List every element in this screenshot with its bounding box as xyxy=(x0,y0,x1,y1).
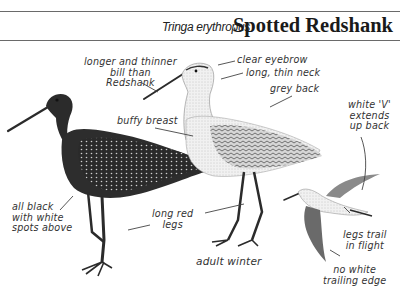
label-bill: longer and thinner bill than Redshank xyxy=(84,57,177,89)
caption-adult-winter: adult winter xyxy=(196,256,262,267)
label-trailing-edge: no white trailing edge xyxy=(323,265,386,286)
label-all-black: all black with white spots above xyxy=(12,202,72,234)
label-eyebrow: clear eyebrow xyxy=(237,55,308,66)
label-legs-trail: legs trail in flight xyxy=(343,230,387,251)
label-back: grey back xyxy=(270,84,319,95)
label-breast: buffy breast xyxy=(117,116,178,127)
dark-bird-figure xyxy=(8,94,214,276)
dark-bird-bill xyxy=(8,107,48,131)
label-neck: long, thin neck xyxy=(246,68,320,79)
label-white-v: white 'V' extends up back xyxy=(348,100,391,132)
label-legs: long red legs xyxy=(152,209,193,230)
